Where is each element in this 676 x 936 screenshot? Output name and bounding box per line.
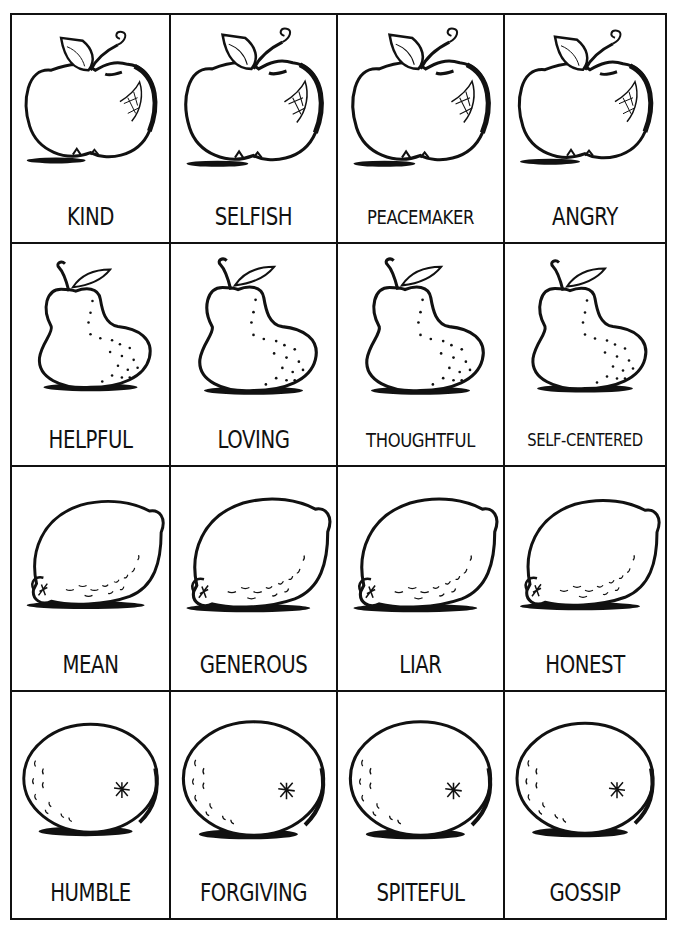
card-label: PEACEMAKER: [353, 202, 488, 232]
orange-icon: [12, 692, 169, 855]
card-gossip: GOSSIP: [505, 692, 665, 918]
orange-icon: [171, 692, 336, 855]
worksheet-grid: KIND SELFISH PEACEMAKER ANGRY HELPFUL LO…: [10, 13, 667, 920]
card-honest: HONEST: [505, 467, 665, 692]
card-thoughtful: THOUGHTFUL: [338, 244, 505, 467]
card-label: HONEST: [519, 650, 650, 680]
apple-icon: [338, 15, 503, 178]
card-label: GOSSIP: [519, 878, 650, 908]
card-label: LOVING: [186, 425, 321, 455]
card-label: ANGRY: [519, 202, 650, 232]
pear-icon: [171, 244, 336, 403]
card-selfish: SELFISH: [171, 15, 338, 244]
card-angry: ANGRY: [505, 15, 665, 244]
card-peacemaker: PEACEMAKER: [338, 15, 505, 244]
pear-icon: [12, 244, 169, 403]
card-label: SPITEFUL: [353, 878, 488, 908]
orange-icon: [505, 692, 665, 855]
card-generous: GENEROUS: [171, 467, 338, 692]
card-self-centered: SELF-CENTERED: [505, 244, 665, 467]
card-helpful: HELPFUL: [12, 244, 171, 467]
lemon-icon: [505, 467, 665, 628]
card-liar: LIAR: [338, 467, 505, 692]
orange-icon: [338, 692, 503, 855]
card-label: KIND: [26, 202, 155, 232]
lemon-icon: [171, 467, 336, 628]
card-loving: LOVING: [171, 244, 338, 467]
card-forgiving: FORGIVING: [171, 692, 338, 918]
card-label: HELPFUL: [26, 425, 155, 455]
card-label: GENEROUS: [186, 650, 321, 680]
card-kind: KIND: [12, 15, 171, 244]
card-label: FORGIVING: [186, 878, 321, 908]
card-label: LIAR: [353, 650, 488, 680]
apple-icon: [12, 15, 169, 178]
apple-icon: [505, 15, 665, 178]
card-spiteful: SPITEFUL: [338, 692, 505, 918]
lemon-icon: [338, 467, 503, 628]
card-label: THOUGHTFUL: [353, 425, 488, 455]
lemon-icon: [12, 467, 169, 628]
pear-icon: [338, 244, 503, 403]
card-humble: HUMBLE: [12, 692, 171, 918]
pear-icon: [505, 244, 665, 403]
card-label: SELFISH: [186, 202, 321, 232]
card-label: MEAN: [26, 650, 155, 680]
card-label: HUMBLE: [26, 878, 155, 908]
card-mean: MEAN: [12, 467, 171, 692]
card-label: SELF-CENTERED: [519, 425, 650, 455]
apple-icon: [171, 15, 336, 178]
